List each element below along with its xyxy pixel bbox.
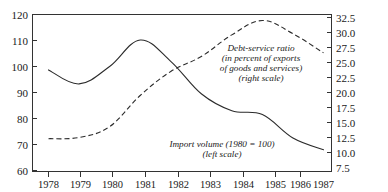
left-tick-label: 70 xyxy=(17,139,29,151)
debt-service-annotation: Debt-service ratio (in percent of export… xyxy=(220,43,302,83)
debt-annotation-line-1: Debt-service ratio xyxy=(226,43,295,53)
right-tick-label: 22.5 xyxy=(336,72,356,84)
x-axis: 1978 1979 1980 1981 1982 1983 1984 1985 … xyxy=(38,172,334,190)
import-volume-annotation: Import volume (1980 = 100) (left scale) xyxy=(168,139,274,159)
x-tick-label: 1985 xyxy=(265,179,286,190)
left-tick-label: 90 xyxy=(17,87,29,99)
chart-container: 120 110 100 90 80 70 60 32.5 30.0 27.5 2… xyxy=(0,0,388,192)
right-tick-label: 7.5 xyxy=(336,162,350,174)
right-tick-label: 10.0 xyxy=(336,147,356,159)
right-tick-label: 20.0 xyxy=(336,87,356,99)
right-tick-label: 27.5 xyxy=(336,42,356,54)
x-tick-label: 1984 xyxy=(233,179,255,190)
x-tick-label: 1978 xyxy=(38,179,59,190)
right-tick-label: 30.0 xyxy=(336,27,356,39)
left-tick-label: 60 xyxy=(17,165,29,177)
right-tick-label: 25.0 xyxy=(336,57,356,69)
x-tick-label: 1987 xyxy=(313,179,334,190)
right-tick-label: 12.5 xyxy=(336,132,356,144)
debt-annotation-line-2: (in percent of exports xyxy=(222,53,301,63)
left-tick-label: 100 xyxy=(12,61,29,73)
x-tick-label: 1986 xyxy=(290,179,311,190)
x-tick-label: 1982 xyxy=(168,179,189,190)
x-tick-label: 1983 xyxy=(200,179,221,190)
x-tick-label: 1979 xyxy=(70,179,91,190)
left-axis: 120 110 100 90 80 70 60 xyxy=(12,9,38,177)
import-annotation-line-1: Import volume (1980 = 100) xyxy=(168,139,274,149)
right-tick-label: 32.5 xyxy=(336,12,356,24)
debt-annotation-line-4: (right scale) xyxy=(238,73,283,83)
line-chart: 120 110 100 90 80 70 60 32.5 30.0 27.5 2… xyxy=(0,0,388,192)
left-tick-label: 110 xyxy=(12,35,29,47)
debt-annotation-line-3: of goods and services) xyxy=(220,63,302,73)
x-tick-label: 1980 xyxy=(102,179,123,190)
right-tick-label: 15.0 xyxy=(336,117,356,129)
left-tick-label: 80 xyxy=(17,113,29,125)
import-annotation-line-2: (left scale) xyxy=(202,149,241,159)
right-tick-label: 17.5 xyxy=(336,102,356,114)
left-tick-label: 120 xyxy=(12,9,29,21)
x-tick-label: 1981 xyxy=(135,179,156,190)
